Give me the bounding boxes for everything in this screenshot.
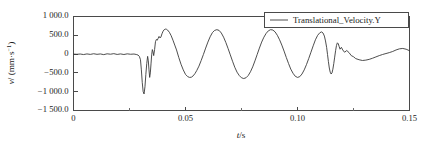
velocity-time-chart: 1 000.0500.00−500.0−1 000.0−1 500.0 00.0… [0,0,421,144]
y-tick-label: −500.0 [44,67,68,77]
y-axis-title: v/ (mm·s−1) [5,42,16,85]
y-tick-label: 0 [64,48,68,58]
plot-frame [74,17,410,111]
y-axis-tick-labels: 1 000.0500.00−500.0−1 000.0−1 500.0 [38,10,69,114]
series-line-0 [74,29,410,94]
legend: Translational_Velocity.Y [265,13,409,28]
x-tick-label: 0 [71,113,75,123]
data-series-group [74,29,410,94]
y-tick-label: 500.0 [49,29,68,39]
chart-screenshot: 1 000.0500.00−500.0−1 000.0−1 500.0 00.0… [0,0,421,144]
x-tick-label: 0.15 [402,113,417,123]
x-tick-label: 0.05 [178,113,193,123]
x-axis-tick-labels: 00.050.100.15 [71,113,417,123]
x-tick-label: 0.10 [290,113,305,123]
legend-label-translational-velocity-y: Translational_Velocity.Y [293,15,381,25]
y-axis-ticks [74,17,78,111]
y-tick-label: 1 000.0 [43,10,69,20]
y-tick-label: −1 000.0 [38,86,69,96]
y-tick-label: −1 500.0 [38,104,69,114]
x-axis-title: t/s [237,130,246,140]
